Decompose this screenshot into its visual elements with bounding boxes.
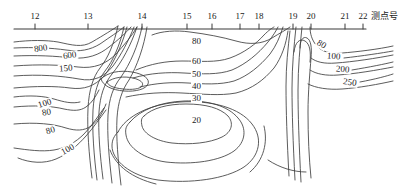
axis-tick-label-20: 20 <box>302 11 320 21</box>
contour-right-1 <box>286 31 290 176</box>
contour-bundle-4 <box>88 26 118 178</box>
contour-plot-canvas <box>0 0 407 187</box>
axis-tick-label-19: 19 <box>284 11 302 21</box>
axis-ticks <box>35 24 363 29</box>
contour-label-80-centre: 80 <box>191 37 202 46</box>
contour-envelope-1 <box>110 150 156 184</box>
axis-group <box>14 24 366 29</box>
axis-tick-label-16: 16 <box>203 11 221 21</box>
contour-label-150: 150 <box>58 63 74 73</box>
contour-label-20: 20 <box>191 116 202 125</box>
contour-label-80-left: 80 <box>40 107 52 118</box>
axis-caption: 测点号 <box>371 11 398 21</box>
contour-600 <box>14 27 124 51</box>
axis-tick-label-18: 18 <box>250 11 268 21</box>
contour-label-40: 40 <box>191 82 202 91</box>
axis-tick-label-12: 12 <box>26 11 44 21</box>
contour-30-outer <box>112 102 259 182</box>
contour-label-100-right: 100 <box>326 51 342 61</box>
contour-bundle-2 <box>108 27 142 183</box>
contour-right-peak <box>300 37 311 178</box>
contour-200-right-b <box>352 62 393 70</box>
axis-tick-label-13: 13 <box>79 11 97 21</box>
axis-tick-label-15: 15 <box>178 11 196 21</box>
contour-100-right <box>311 55 393 63</box>
contour-30 <box>126 31 288 97</box>
contour-250-right-b <box>360 74 393 82</box>
contour-label-30: 30 <box>191 94 202 103</box>
axis-tick-label-14: 14 <box>133 11 151 21</box>
contour-200-right <box>310 67 393 75</box>
contour-figure: 12 13 14 15 16 17 18 19 20 21 22 测点号 800… <box>0 0 407 187</box>
contour-label-200-right: 200 <box>335 64 351 74</box>
axis-tick-label-17: 17 <box>231 11 249 21</box>
contour-label-60: 60 <box>191 57 202 66</box>
contour-right-3 <box>298 27 302 182</box>
contour-label-250-right: 250 <box>341 77 358 88</box>
contour-right-peak2 <box>294 40 310 62</box>
contour-100-lower <box>14 108 104 151</box>
contour-40 <box>140 27 283 87</box>
contour-bundle-3 <box>117 27 147 185</box>
contour-label-50: 50 <box>191 70 202 79</box>
axis-tick-label-22: 22 <box>354 11 372 21</box>
contour-20-core <box>141 104 231 144</box>
axis-tick-label-21: 21 <box>336 11 354 21</box>
